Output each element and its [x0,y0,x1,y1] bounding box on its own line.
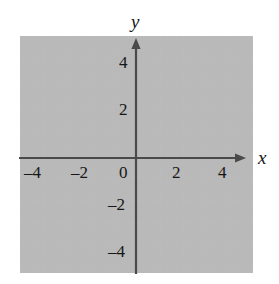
y-axis-arrowhead [131,38,140,49]
x-tick-label-pos2: 2 [172,164,181,181]
coordinate-grid-figure: –4 –2 0 2 4 4 2 –2 –4 y x [0,0,279,284]
x-tick-label-zero: 0 [119,164,128,181]
y-tick-label-neg2: –2 [108,196,125,213]
y-tick-label-neg4: –4 [108,243,125,260]
x-tick-label-pos4: 4 [218,164,227,181]
y-tick-label-pos2: 2 [119,101,128,118]
x-axis-label: x [258,148,266,167]
y-axis-label: y [131,12,139,31]
x-axis-arrowhead [235,153,246,162]
axes-layer [0,0,279,284]
x-tick-label-neg4: –4 [24,164,41,181]
x-tick-label-neg2: –2 [71,164,88,181]
y-tick-label-pos4: 4 [119,54,128,71]
